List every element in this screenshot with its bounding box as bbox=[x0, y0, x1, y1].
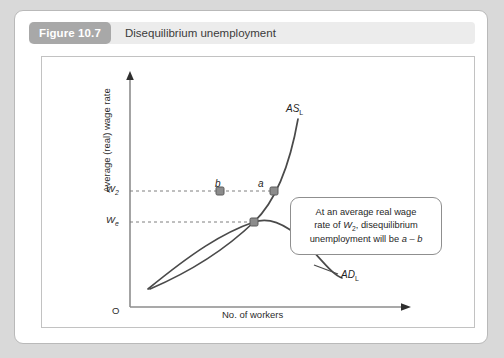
as-l-curve-label: ASL bbox=[286, 103, 303, 116]
figure-number-badge: Figure 10.7 bbox=[29, 22, 111, 44]
equilibrium-point-marker bbox=[250, 218, 258, 226]
annotation-text: At an average real wage rate of W2, dise… bbox=[310, 206, 423, 246]
page-background: Figure 10.7 Disequilibrium unemployment … bbox=[0, 0, 504, 358]
point-b-label: b bbox=[215, 178, 221, 189]
point-a-label: a bbox=[258, 178, 264, 189]
w2-axis-label: W2 bbox=[106, 183, 119, 196]
x-axis-arrowhead bbox=[401, 303, 411, 311]
y-axis-arrowhead bbox=[126, 71, 134, 80]
figure-title: Disequilibrium unemployment bbox=[125, 22, 276, 44]
ad-l-curve-label: ADL bbox=[341, 269, 359, 282]
point-a-marker bbox=[270, 187, 278, 195]
as-l-curve bbox=[150, 119, 298, 289]
figure-card: Figure 10.7 Disequilibrium unemployment … bbox=[14, 10, 488, 344]
chart-plot-area: Average (real) wage rate No. of workers … bbox=[41, 56, 475, 328]
annotation-callout: At an average real wage rate of W2, dise… bbox=[290, 197, 442, 255]
we-axis-label: We bbox=[106, 214, 119, 227]
